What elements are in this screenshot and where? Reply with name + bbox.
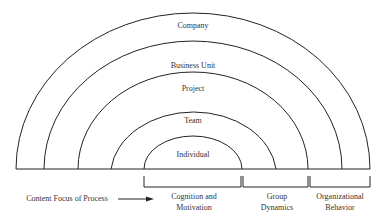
arrow-head-icon — [146, 197, 154, 202]
level-label-business-unit: Business Unit — [171, 61, 216, 71]
bracket-label-group: Group Dynamics — [261, 191, 293, 213]
axis-label: Content Focus of Process — [26, 194, 108, 204]
level-label-project: Project — [182, 84, 205, 94]
bracket-label-organizational: Organizational Behavior — [316, 191, 363, 213]
bracket-cognition — [144, 176, 241, 187]
bracket-organizational — [310, 176, 370, 187]
bracket-label-cognition: Cognition and Motivation — [171, 191, 217, 213]
level-label-individual: Individual — [177, 150, 210, 160]
level-label-team: Team — [184, 116, 202, 126]
diagram-canvas — [0, 0, 388, 219]
level-label-company: Company — [177, 21, 208, 31]
bracket-group — [243, 176, 308, 187]
